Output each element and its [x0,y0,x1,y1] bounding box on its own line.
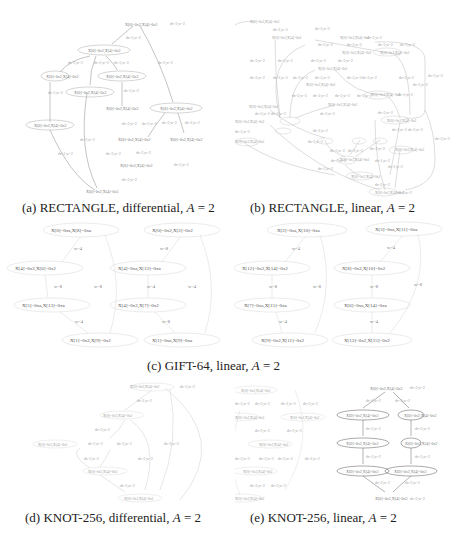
svg-text:X[0]=0x2,X[4]=0x2: X[0]=0x2,X[4]=0x2 [405,441,438,447]
gift-graph-3: X[2]=0xa,X[10]=0xa X[12]=0x2,X[14]=0x2 X… [234,223,347,347]
panel-a-rectangle-differential: X[0]=0x2,X[4]=0x2 X[0]=0x2,X[4]=0x2 X[0]… [0,0,235,220]
svg-text:w=4: w=4 [370,319,379,324]
svg-text:dx=2,w=2: dx=2,w=2 [395,399,410,404]
svg-text:dx=2,w=2: dx=2,w=2 [375,481,390,486]
svg-text:dx=2,w=2: dx=2,w=2 [170,22,185,27]
svg-text:dx=2,w=2: dx=2,w=2 [378,111,393,116]
svg-text:dx=2,w=2: dx=2,w=2 [120,484,135,489]
svg-text:dx=2,w=2: dx=2,w=2 [136,151,151,156]
graph-b: X[0]=0x2,X[4]=0x2 dx=2,w=2 dx=2,w=2 X[0]… [235,0,470,200]
svg-text:dx=2,w=2: dx=2,w=2 [281,402,296,407]
svg-text:dx=2,w=2: dx=2,w=2 [126,36,141,41]
svg-text:dx=2,w=2: dx=2,w=2 [174,163,189,168]
svg-text:X[1]=0x2,X[9]=0x2: X[1]=0x2,X[9]=0x2 [70,338,111,344]
panel-b-rectangle-linear: X[0]=0x2,X[4]=0x2 dx=2,w=2 dx=2,w=2 X[0]… [235,0,470,220]
svg-text:X[0]=0x2,X[4]=0x2: X[0]=0x2,X[4]=0x2 [88,48,121,54]
svg-text:dx=2,w=2: dx=2,w=2 [250,76,265,81]
svg-text:X[0]=0x2,X[4]=0x2: X[0]=0x2,X[4]=0x2 [86,189,119,195]
svg-text:X[0]=0x2,X[4]=0x2: X[0]=0x2,X[4]=0x2 [272,36,302,41]
svg-text:X[0]=0x2,X[4]=0x2: X[0]=0x2,X[4]=0x2 [346,441,379,447]
svg-text:dx=2,w=2: dx=2,w=2 [235,402,250,407]
svg-text:dx=2,w=2: dx=2,w=2 [122,178,137,183]
svg-text:X[0]=0x2,X[4]=0x2: X[0]=0x2,X[4]=0x2 [106,106,139,112]
svg-text:X[4]=0x2,X[7]=0x2: X[4]=0x2,X[7]=0x2 [118,303,159,309]
svg-text:dx=2,w=2: dx=2,w=2 [330,149,345,154]
svg-text:X[9]=0x2,X[11]=0x2: X[9]=0x2,X[11]=0x2 [261,338,305,344]
svg-text:dx=2,w=2: dx=2,w=2 [273,76,288,81]
svg-text:X[12]=0x2,X[14]=0x2: X[12]=0x2,X[14]=0x2 [242,266,288,272]
svg-text:w=4: w=4 [387,245,396,250]
svg-text:X[0]=0xa,X[8]=0xa: X[0]=0xa,X[8]=0xa [51,228,92,234]
svg-text:dx=2,w=2: dx=2,w=2 [375,159,390,164]
gift-graph-4: X[3]=0xa,X[11]=0xa X[8]=0x2,X[10]=0x2 X[… [332,222,442,347]
svg-text:dx=2,w=2: dx=2,w=2 [122,122,137,127]
svg-text:X[0]=0x2,X[4]=0x2: X[0]=0x2,X[4]=0x2 [375,496,408,502]
svg-text:dx=2,w=2: dx=2,w=2 [164,442,179,447]
svg-text:w=8: w=8 [54,284,63,289]
svg-text:dx=2,w=2: dx=2,w=2 [84,457,99,462]
svg-text:dx=2,w=2: dx=2,w=2 [338,59,353,64]
svg-text:dx=2,w=2: dx=2,w=2 [378,43,393,48]
caption-e: (e) KNOT-256, linear, A = 2 [250,510,397,526]
svg-text:X[4]=0x2,X[6]=0x2: X[4]=0x2,X[6]=0x2 [15,266,56,272]
svg-text:dx=2,w=2: dx=2,w=2 [278,59,293,64]
svg-text:dx=2,w=2: dx=2,w=2 [137,399,152,404]
svg-text:dx=2,w=2: dx=2,w=2 [287,429,302,434]
gift-graph-1: X[0]=0xa,X[8]=0xa X[4]=0x2,X[6]=0x2 X[5]… [7,223,138,347]
svg-text:dx=2,w=2: dx=2,w=2 [303,402,318,407]
svg-text:dx=2,w=2: dx=2,w=2 [428,74,443,79]
svg-text:dx=2,w=2: dx=2,w=2 [318,43,333,48]
svg-text:dx=2,w=2: dx=2,w=2 [320,112,335,117]
svg-text:dx=2,w=2: dx=2,w=2 [94,61,109,66]
svg-text:dx=2,w=2: dx=2,w=2 [114,61,129,66]
svg-text:X[0]=0x2,X[4]=0x2: X[0]=0x2,X[4]=0x2 [250,20,280,25]
svg-text:dx=2,w=2: dx=2,w=2 [273,28,288,33]
svg-text:dx=2,w=2: dx=2,w=2 [271,484,286,489]
svg-text:dx=2,w=2: dx=2,w=2 [117,442,132,447]
svg-text:dx=2,w=2: dx=2,w=2 [347,76,362,81]
svg-text:dx=2,w=2: dx=2,w=2 [413,83,428,88]
svg-text:X[2]=0xa,X[10]=0xa: X[2]=0xa,X[10]=0xa [277,228,320,234]
svg-text:dx=2,w=2: dx=2,w=2 [399,76,414,81]
svg-text:X[0]=0x2,X[4]=0x2: X[0]=0x2,X[4]=0x2 [340,36,370,41]
svg-text:X[0]=0x2,X[4]=0x2: X[0]=0x2,X[4]=0x2 [120,163,153,169]
svg-text:dx=2,w=2: dx=2,w=2 [106,152,121,157]
svg-text:dx=2,w=2: dx=2,w=2 [259,457,274,462]
svg-text:dx=2,w=2: dx=2,w=2 [408,128,423,133]
svg-text:dx=2,w=2: dx=2,w=2 [95,428,110,433]
svg-text:dx=2,w=2: dx=2,w=2 [410,497,425,502]
svg-text:dx=2,w=2: dx=2,w=2 [366,455,381,460]
svg-text:w=8: w=8 [94,284,103,289]
svg-text:dx=2,w=2: dx=2,w=2 [315,27,330,32]
svg-text:dx=2,w=2: dx=2,w=2 [88,442,103,447]
svg-text:X[1]=0xa,X[9]=0xa: X[1]=0xa,X[9]=0xa [152,338,193,344]
svg-text:dx=2,w=2: dx=2,w=2 [58,152,73,157]
svg-text:w=8: w=8 [269,284,278,289]
svg-text:dx=2,w=2: dx=2,w=2 [435,137,450,142]
svg-text:dx=2,w=2: dx=2,w=2 [80,138,95,143]
svg-text:X[0]=0x2,X[4]=0x2: X[0]=0x2,X[4]=0x2 [249,105,279,110]
svg-text:w=8: w=8 [160,246,169,251]
gift-graph-2: X[0]=0x2,X[2]=0x2 X[4]=0xa,X[12]=0xa X[4… [110,223,220,347]
svg-text:dx=2,w=2: dx=2,w=2 [398,93,413,98]
svg-text:dx=2,w=2: dx=2,w=2 [158,61,173,66]
svg-text:dx=2,w=2: dx=2,w=2 [313,129,328,134]
panel-e-knot256-linear: X[0]=0x2,X[4]=0x2 dx=2,w=2 dx=2,w=2 dx=2… [235,380,470,540]
svg-text:X[0]=0x2,X[4]=0x2: X[0]=0x2,X[4]=0x2 [387,119,417,124]
svg-text:X[0]=0x2,X[2]=0x2: X[0]=0x2,X[2]=0x2 [152,228,193,234]
svg-text:dx=2,w=2: dx=2,w=2 [367,36,382,41]
svg-text:X[8]=0x2,X[10]=0x2: X[8]=0x2,X[10]=0x2 [342,266,386,272]
graph-e: X[0]=0x2,X[4]=0x2 dx=2,w=2 dx=2,w=2 dx=2… [235,380,470,505]
svg-text:X[0]=0x2,X[4]=0x2: X[0]=0x2,X[4]=0x2 [395,148,425,153]
svg-text:X[0]=0x2,X[4]=0x2: X[0]=0x2,X[4]=0x2 [404,413,437,419]
svg-text:X[0]=0x2,X[4]=0x2: X[0]=0x2,X[4]=0x2 [346,413,379,419]
svg-text:dx=2,w=2: dx=2,w=2 [250,484,265,489]
svg-text:dx=2,w=2: dx=2,w=2 [366,427,381,432]
svg-text:w=8: w=8 [370,284,379,289]
svg-text:dx=2,w=2: dx=2,w=2 [410,386,425,391]
svg-text:dx=2,w=2: dx=2,w=2 [235,457,250,462]
svg-text:X[0]=0x2,X[4]=0x2: X[0]=0x2,X[4]=0x2 [160,106,193,112]
svg-text:dx=2,w=2: dx=2,w=2 [362,76,377,81]
graph-c: X[0]=0xa,X[8]=0xa X[4]=0x2,X[6]=0x2 X[5]… [0,220,470,365]
svg-text:X[0]=0x2,X[4]=0x2: X[0]=0x2,X[4]=0x2 [74,90,107,96]
